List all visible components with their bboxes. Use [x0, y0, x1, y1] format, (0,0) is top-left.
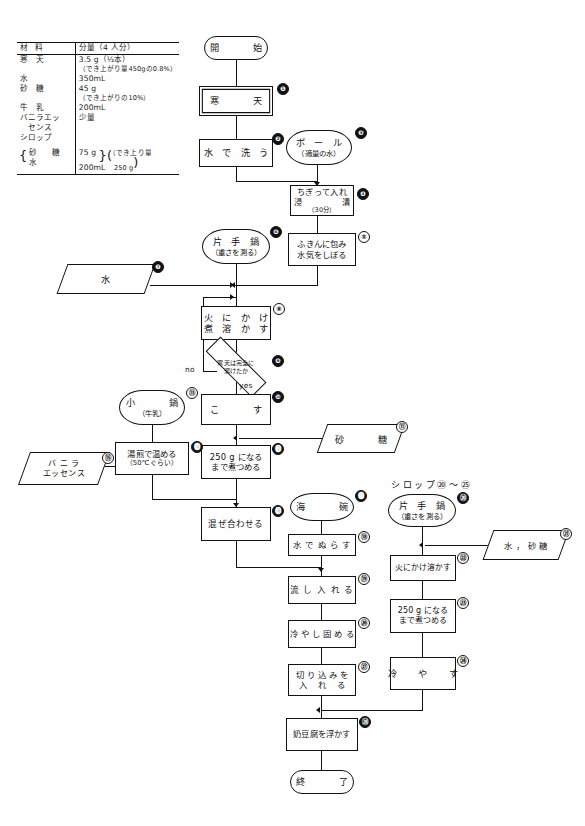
start-terminator[interactable]: 開 始: [204, 36, 268, 60]
connector: [236, 60, 237, 86]
node-cool-syrup[interactable]: 冷 や す: [390, 657, 456, 690]
cell-amount: 少量: [75, 113, 179, 123]
step-number-2: ❷: [272, 133, 284, 145]
connector: [239, 438, 322, 439]
cell-material: バニラエッ: [17, 113, 75, 123]
connector: [422, 581, 423, 599]
arrowhead: [230, 294, 234, 300]
step-number-16: ⓰: [272, 505, 284, 517]
node-make-cuts[interactable]: 切 り 込 み を 入 れ る: [288, 664, 356, 696]
connector: [236, 181, 317, 182]
node-pour-in[interactable]: 流 し 入 れ る: [288, 576, 356, 604]
arrowhead: [233, 435, 237, 441]
node-mix-together[interactable]: 混ぜ合わせる: [201, 507, 271, 541]
connector: [422, 690, 423, 711]
table-header-row: 材料 分量（4 人分）: [17, 43, 179, 55]
arrowhead: [318, 568, 324, 572]
step-number-28: ㉘: [359, 716, 371, 728]
cell-material: シロップ: [17, 133, 75, 143]
header-amount: 分量（4 人分）: [75, 43, 179, 55]
connector: [317, 216, 318, 233]
flowchart-sheet: 材料 分量（4 人分） 寒 天 3.5 g（½本） （でき上がり量450gの0.…: [0, 0, 585, 826]
connector: [150, 285, 185, 286]
step-number-14: ⓮: [191, 441, 203, 453]
node-vanilla-essence-input[interactable]: バ ニ ラ エッセンス: [24, 452, 104, 485]
node-bowl-haiwan[interactable]: 海 碗: [290, 493, 354, 521]
cell-material: [17, 65, 75, 74]
node-bowl[interactable]: ボ ー ル （適量の水）: [286, 130, 352, 165]
node-heat-and-dissolve-syrup[interactable]: 火にかけ溶かす: [390, 555, 456, 581]
cell-material: 寒 天: [17, 55, 75, 65]
step-number-1: ❶: [277, 83, 289, 95]
table-row: 水 350mL: [17, 74, 179, 84]
node-warm-in-water-bath[interactable]: 湯煎で温める （50℃ぐらい）: [115, 442, 189, 475]
cell-material: {砂 糖: [17, 143, 75, 158]
syrup-section-label: シロップ⑳〜㉕: [391, 478, 472, 491]
step-number-27: ㉗: [358, 661, 370, 673]
end-terminator[interactable]: 終 了: [290, 770, 354, 794]
connector: [236, 116, 237, 139]
node-label: バ ニ ラ エッセンス: [24, 452, 104, 485]
step-number-21: ㉑: [560, 528, 572, 540]
ingredients-table: 材料 分量（4 人分） 寒 天 3.5 g（½本） （でき上がり量450gの0.…: [17, 42, 179, 175]
step-number-20: ⑳: [457, 492, 469, 504]
table-row: （でき上がり量450gの0.8%）: [17, 65, 179, 74]
step-number-5: ⑤: [358, 231, 370, 243]
step-number-4: ❹: [357, 188, 369, 200]
node-kanten[interactable]: 寒 天: [199, 86, 273, 116]
node-float-nai-doufu[interactable]: 奶豆腐を浮かす: [286, 718, 358, 751]
node-wash-with-water[interactable]: 水 で 洗 う: [199, 139, 273, 167]
connector: [236, 264, 237, 285]
node-moisten-with-water[interactable]: 水 で ぬ ら す: [288, 534, 356, 556]
step-number-19: ⑲: [358, 573, 370, 585]
step-number-6: ❻: [270, 226, 282, 238]
decision-yes-label: yes: [239, 381, 253, 390]
step-number-9: ❾: [272, 355, 284, 367]
table-row: {砂 糖 75 g }(（でき上り量: [17, 143, 179, 158]
node-label: 水: [62, 264, 150, 294]
table-row: 水 200mL 250 g): [17, 158, 179, 173]
cell-amount: 350mL: [75, 74, 179, 84]
table-row: 牛 乳 200mL: [17, 103, 179, 113]
cell-amount: [75, 133, 179, 143]
step-number-13: ⑬: [186, 387, 198, 399]
table-row: センス: [17, 123, 179, 133]
connector: [321, 648, 322, 664]
node-heat-and-dissolve[interactable]: 火 に か け 煮 溶 か す: [201, 306, 271, 340]
node-wrap-and-squeeze[interactable]: ふきんに包み 水気をしぼる: [288, 233, 356, 266]
node-reduce-to-250g-main[interactable]: 250 g になる まで煮つめる: [201, 445, 271, 479]
cell-material: 水: [17, 74, 75, 84]
node-small-pot[interactable]: 小 鍋 （牛乳）: [119, 390, 185, 425]
cell-material: 牛 乳: [17, 103, 75, 113]
arrowhead: [316, 707, 320, 713]
step-number-11: ⑪: [396, 421, 408, 433]
connector: [236, 285, 237, 306]
node-decision-fully-dissolved[interactable]: 寒天は完全に 溶けたか: [190, 352, 282, 382]
connector: [236, 541, 237, 568]
connector: [152, 499, 236, 500]
node-sugar-input[interactable]: 砂 糖: [322, 424, 400, 453]
node-saucepan-syrup[interactable]: 片 手 鍋 （重さを測る）: [388, 494, 456, 527]
decision-label: 寒天は完全に 溶けたか: [190, 352, 282, 382]
node-label: 水 ， 砂 糖: [488, 530, 564, 560]
node-water-input[interactable]: 水: [62, 264, 150, 294]
connector: [422, 633, 423, 657]
node-reduce-to-250g-syrup[interactable]: 250 g になる まで煮つめる: [390, 599, 456, 633]
arrowhead: [419, 542, 423, 548]
cell-amount: 200mL: [75, 103, 179, 113]
cell-amount: 45 g: [75, 84, 179, 94]
header-material: 材料: [17, 43, 75, 55]
node-saucepan-main[interactable]: 片 手 鍋 （重さを測る）: [202, 229, 270, 264]
node-tear-and-soak[interactable]: ちぎって入れ 浸 漬 （30分）: [290, 185, 354, 216]
step-number-10: ❿: [272, 391, 284, 403]
node-chill-and-set[interactable]: 冷 や し 固 め る: [288, 620, 356, 648]
step-number-8: ⑧: [273, 303, 285, 315]
connector: [425, 545, 488, 546]
step-number-18: ⑱: [358, 531, 370, 543]
node-water-sugar-input[interactable]: 水 ， 砂 糖: [488, 530, 564, 560]
connector: [236, 167, 237, 182]
decision-no-label: no: [185, 365, 195, 374]
cell-amount: [75, 123, 179, 133]
node-strain[interactable]: こ す: [201, 394, 271, 425]
table-row: 寒 天 3.5 g（½本）: [17, 55, 179, 65]
